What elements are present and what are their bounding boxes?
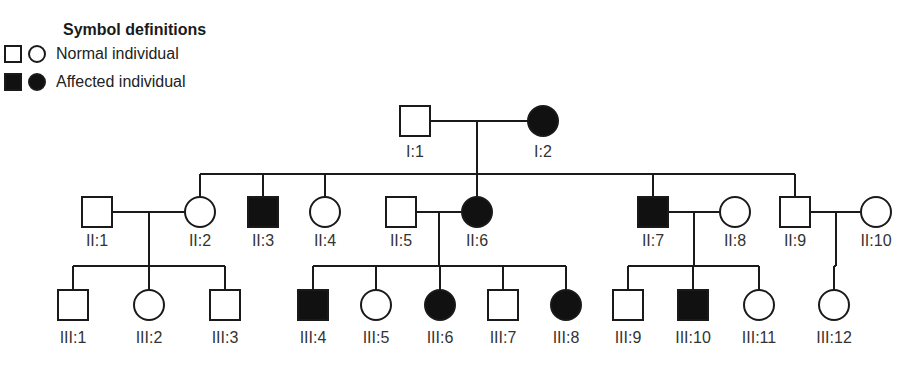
normal-female-symbol xyxy=(819,290,849,320)
individual-label: III:8 xyxy=(553,329,580,346)
normal-male-symbol xyxy=(613,290,643,320)
individual-label: II:6 xyxy=(466,232,488,249)
normal-male-symbol xyxy=(82,197,112,227)
individual-label: III:6 xyxy=(427,329,454,346)
normal-female-symbol xyxy=(134,290,164,320)
affected-male-symbol xyxy=(298,290,328,320)
normal-female-symbol xyxy=(720,197,750,227)
individual-label: II:2 xyxy=(189,232,211,249)
affected-female-symbol xyxy=(528,106,558,136)
individual-label: III:11 xyxy=(742,329,776,346)
normal-female-symbol xyxy=(310,197,340,227)
individual-label: III:10 xyxy=(675,329,711,346)
individual-label: II:10 xyxy=(860,232,891,249)
individual-label: III:1 xyxy=(60,329,87,346)
individual-label: III:7 xyxy=(490,329,517,346)
normal-male-symbol xyxy=(210,290,240,320)
normal-male-symbol xyxy=(386,197,416,227)
individual-label: II:7 xyxy=(642,232,664,249)
individual-label: III:2 xyxy=(136,329,163,346)
individual-label: III:4 xyxy=(300,329,327,346)
pedigree-chart: I:1I:2II:1II:2II:3II:4II:5II:6II:7II:8II… xyxy=(0,0,911,366)
normal-male-symbol xyxy=(400,106,430,136)
individual-label: I:1 xyxy=(406,143,424,160)
normal-male-symbol xyxy=(780,197,810,227)
affected-male-symbol xyxy=(638,197,668,227)
affected-female-symbol xyxy=(462,197,492,227)
affected-male-symbol xyxy=(248,197,278,227)
individual-label: III:12 xyxy=(816,329,852,346)
individual-label: II:8 xyxy=(724,232,746,249)
individual-label: II:9 xyxy=(784,232,806,249)
normal-female-symbol xyxy=(361,290,391,320)
affected-female-symbol xyxy=(551,290,581,320)
normal-male-symbol xyxy=(58,290,88,320)
affected-female-symbol xyxy=(425,290,455,320)
individual-label: II:5 xyxy=(390,232,412,249)
individual-label: II:3 xyxy=(252,232,274,249)
individual-label: I:2 xyxy=(534,143,552,160)
individual-label: II:1 xyxy=(86,232,108,249)
individual-label: III:3 xyxy=(212,329,239,346)
normal-male-symbol xyxy=(488,290,518,320)
normal-female-symbol xyxy=(185,197,215,227)
individual-label: III:5 xyxy=(363,329,390,346)
individual-label: III:9 xyxy=(615,329,642,346)
individual-label: II:4 xyxy=(314,232,336,249)
normal-female-symbol xyxy=(861,197,891,227)
normal-female-symbol xyxy=(744,290,774,320)
affected-male-symbol xyxy=(678,290,708,320)
